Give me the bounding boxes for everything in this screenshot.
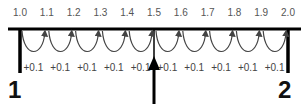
step-arc-icon (102, 31, 125, 52)
step-label: +0.1 (238, 62, 258, 73)
step-label: +0.1 (184, 62, 204, 73)
step-arc-icon (76, 31, 99, 52)
tick-labels: 1.01.11.21.31.41.51.61.71.81.92.0 (13, 7, 295, 18)
step-arc-icon (183, 31, 206, 52)
step-arc-icon (236, 31, 259, 52)
tick-label: 1.7 (201, 7, 215, 18)
step-label: +0.1 (24, 62, 44, 73)
tick-label: 1.1 (40, 7, 54, 18)
tick-label: 1.5 (147, 7, 161, 18)
number-line-diagram: 1.01.11.21.31.41.51.61.71.81.92.0 +0.1+0… (0, 0, 308, 106)
step-label: +0.1 (211, 62, 231, 73)
tick-label: 1.4 (120, 7, 134, 18)
step-arc-icon (22, 31, 45, 52)
step-arc-icon (156, 31, 179, 52)
tick-label: 2.0 (281, 7, 295, 18)
tick-label: 1.6 (174, 7, 188, 18)
left-end-label: 1 (8, 76, 21, 103)
step-arc-icon (129, 31, 152, 52)
tick-label: 1.8 (227, 7, 241, 18)
step-label: +0.1 (131, 62, 151, 73)
step-label: +0.1 (265, 62, 285, 73)
step-label: +0.1 (158, 62, 178, 73)
tick-label: 1.9 (254, 7, 268, 18)
step-arc-icon (263, 31, 286, 52)
tick-label: 1.2 (67, 7, 81, 18)
tick-label: 1.3 (93, 7, 107, 18)
right-end-label: 2 (278, 76, 291, 103)
step-label: +0.1 (104, 62, 124, 73)
step-label: +0.1 (50, 62, 70, 73)
tick-label: 1.0 (13, 7, 27, 18)
step-label: +0.1 (77, 62, 97, 73)
step-arc-icon (210, 31, 233, 52)
step-arc-icon (49, 31, 72, 52)
